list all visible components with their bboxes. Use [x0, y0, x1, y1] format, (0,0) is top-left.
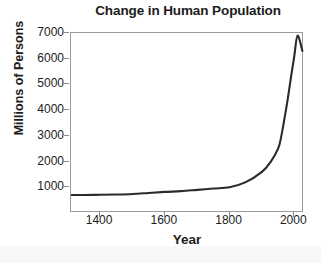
y-tick-mark: [64, 186, 69, 187]
y-tick-mark: [64, 135, 69, 136]
y-axis-title: Millions of Persons: [12, 8, 26, 148]
y-tick-mark: [64, 109, 69, 110]
x-tick-mark: [164, 212, 165, 217]
x-axis-title: Year: [70, 232, 304, 247]
x-tick-mark: [99, 212, 100, 217]
y-tick-label: 1000: [28, 180, 64, 192]
y-tick-mark: [64, 161, 69, 162]
y-axis-tick-labels: 1000200030004000500060007000: [26, 0, 64, 263]
y-tick-label: 6000: [28, 52, 64, 64]
chart-figure: Change in Human Population Millions of P…: [0, 0, 321, 263]
x-tick-mark: [293, 212, 294, 217]
y-tick-label: 2000: [28, 155, 64, 167]
y-tick-label: 5000: [28, 77, 64, 89]
y-tick-label: 4000: [28, 103, 64, 115]
y-tick-mark: [64, 83, 69, 84]
plot-area: [70, 32, 303, 212]
y-tick-label: 7000: [28, 26, 64, 38]
population-curve-svg: [71, 33, 304, 213]
population-curve-path: [71, 36, 302, 195]
y-tick-label: 3000: [28, 129, 64, 141]
chart-title: Change in Human Population: [72, 3, 304, 18]
x-tick-mark: [229, 212, 230, 217]
y-tick-mark: [64, 32, 69, 33]
y-tick-mark: [64, 58, 69, 59]
